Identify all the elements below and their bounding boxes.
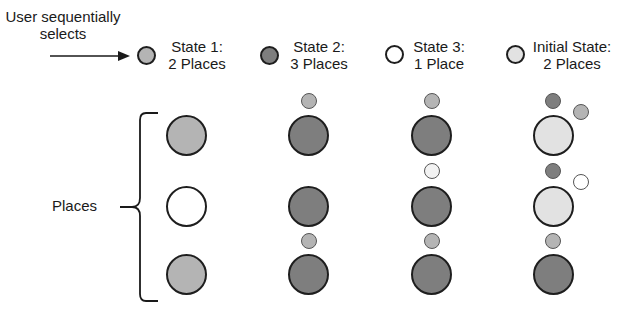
place-col3-row2 <box>411 186 452 227</box>
marker-col2-row3 <box>301 233 317 249</box>
user-label-line2: selects <box>0 25 126 42</box>
legend-state3-dot <box>385 45 404 64</box>
marker-col4-row2-a <box>545 163 561 179</box>
marker-col3-row3 <box>424 233 440 249</box>
legend-state2: State 2: 3 Places <box>284 38 354 72</box>
place-col1-row2 <box>166 186 207 227</box>
marker-col4-row2-b <box>573 174 589 190</box>
marker-col4-row1-a <box>545 93 561 109</box>
arrow-icon <box>48 48 133 64</box>
user-label-line1: User sequentially <box>0 8 126 25</box>
place-col2-row1 <box>288 115 329 156</box>
legend-state1-line1: State 1: <box>162 38 232 55</box>
places-label: Places <box>52 197 97 214</box>
legend-state1-dot <box>137 46 156 65</box>
place-col3-row1 <box>411 115 452 156</box>
legend-state2-line2: 3 Places <box>284 55 354 72</box>
legend-initial: Initial State: 2 Places <box>523 38 621 72</box>
place-col4-row2 <box>533 186 574 227</box>
legend-initial-line1: Initial State: <box>523 38 621 55</box>
place-col1-row1 <box>166 115 207 156</box>
marker-col3-row1 <box>424 93 440 109</box>
legend-initial-line2: 2 Places <box>523 55 621 72</box>
user-selects-label: User sequentially selects <box>0 8 126 42</box>
place-col2-row2 <box>288 186 329 227</box>
legend-state1-line2: 2 Places <box>162 55 232 72</box>
place-col4-row1 <box>533 115 574 156</box>
place-col1-row3 <box>166 254 207 295</box>
legend-state2-dot <box>260 46 279 65</box>
marker-col4-row3 <box>545 233 561 249</box>
brace-icon <box>112 110 162 305</box>
legend-state1: State 1: 2 Places <box>162 38 232 72</box>
legend-state3: State 3: 1 Place <box>407 38 471 72</box>
marker-col3-row2 <box>424 163 440 179</box>
marker-col2-row1 <box>301 93 317 109</box>
legend-state3-line2: 1 Place <box>407 55 471 72</box>
legend-state3-line1: State 3: <box>407 38 471 55</box>
place-col2-row3 <box>288 254 329 295</box>
marker-col4-row1-b <box>573 104 589 120</box>
legend-state2-line1: State 2: <box>284 38 354 55</box>
place-col4-row3 <box>533 254 574 295</box>
place-col3-row3 <box>411 254 452 295</box>
